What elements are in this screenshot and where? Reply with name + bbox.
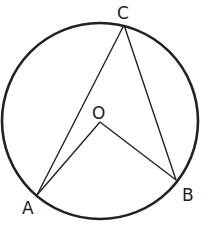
- geometry-diagram: C O A B: [0, 0, 210, 228]
- segment-cb: [124, 25, 176, 180]
- label-a: A: [22, 198, 34, 218]
- label-o: O: [92, 103, 105, 123]
- segment-ob: [100, 122, 176, 180]
- label-b: B: [182, 185, 194, 205]
- label-c: C: [117, 3, 129, 23]
- segment-ac: [37, 25, 124, 195]
